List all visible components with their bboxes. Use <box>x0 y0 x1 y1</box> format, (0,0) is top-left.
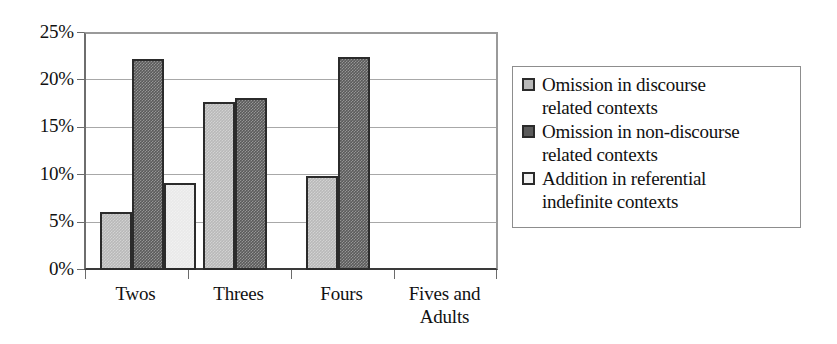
x-axis-tick-mark <box>85 270 86 279</box>
bar-fours-series-0 <box>306 176 338 270</box>
legend-item-series-1[interactable]: Omission in non-discourse related contex… <box>522 120 794 166</box>
x-axis-tick-mark <box>496 270 497 279</box>
x-axis-tick-mark <box>394 270 395 279</box>
bar-twos-series-0 <box>100 212 132 270</box>
y-axis-tick-label: 20% <box>12 69 74 88</box>
y-axis-tick-label: 0% <box>12 259 74 278</box>
x-axis-tick-mark <box>291 270 292 279</box>
bar-threes-series-0 <box>203 102 235 270</box>
legend-swatch-icon-series-2 <box>522 172 535 185</box>
legend-item-series-2[interactable]: Addition in referential indefinite conte… <box>522 167 794 213</box>
bar-fours-series-1 <box>338 57 370 270</box>
x-axis-label-threes: Threes <box>187 282 290 305</box>
y-axis-labels: 25% 20% 15% 10% 5% 0% <box>12 0 74 344</box>
x-axis-tick-mark <box>188 270 189 279</box>
y-axis-tick-mark <box>77 174 84 175</box>
bar-chart-figure: 25% 20% 15% 10% 5% 0% <box>0 0 837 344</box>
bars-layer <box>86 34 496 270</box>
x-axis-label-fives-and-adults: Fives and Adults <box>393 282 496 328</box>
x-axis-label-fours: Fours <box>290 282 393 305</box>
y-axis-tick-label: 25% <box>12 22 74 41</box>
bar-twos-series-2 <box>164 183 196 270</box>
legend-label-series-0: Omission in discourse related contexts <box>542 73 706 119</box>
y-axis-tick-label: 10% <box>12 164 74 183</box>
legend-label-series-1: Omission in non-discourse related contex… <box>542 120 739 166</box>
y-axis-tick-mark <box>77 32 84 33</box>
y-axis-tick-mark <box>77 222 84 223</box>
chart-legend: Omission in discourse related contexts O… <box>512 66 801 228</box>
legend-swatch-icon-series-0 <box>522 78 535 91</box>
y-axis-tick-label: 15% <box>12 116 74 135</box>
legend-label-series-2: Addition in referential indefinite conte… <box>542 167 706 213</box>
y-axis-tick-mark <box>77 269 84 270</box>
legend-swatch-icon-series-1 <box>522 125 535 138</box>
bar-threes-series-1 <box>235 98 267 270</box>
y-axis-tick-label: 5% <box>12 211 74 230</box>
legend-item-series-0[interactable]: Omission in discourse related contexts <box>522 73 794 119</box>
y-axis-tick-mark <box>77 127 84 128</box>
x-axis-label-twos: Twos <box>84 282 187 305</box>
y-axis-tick-mark <box>77 79 84 80</box>
x-axis-labels: Twos Threes Fours Fives and Adults <box>84 282 498 342</box>
bar-twos-series-1 <box>132 59 164 270</box>
